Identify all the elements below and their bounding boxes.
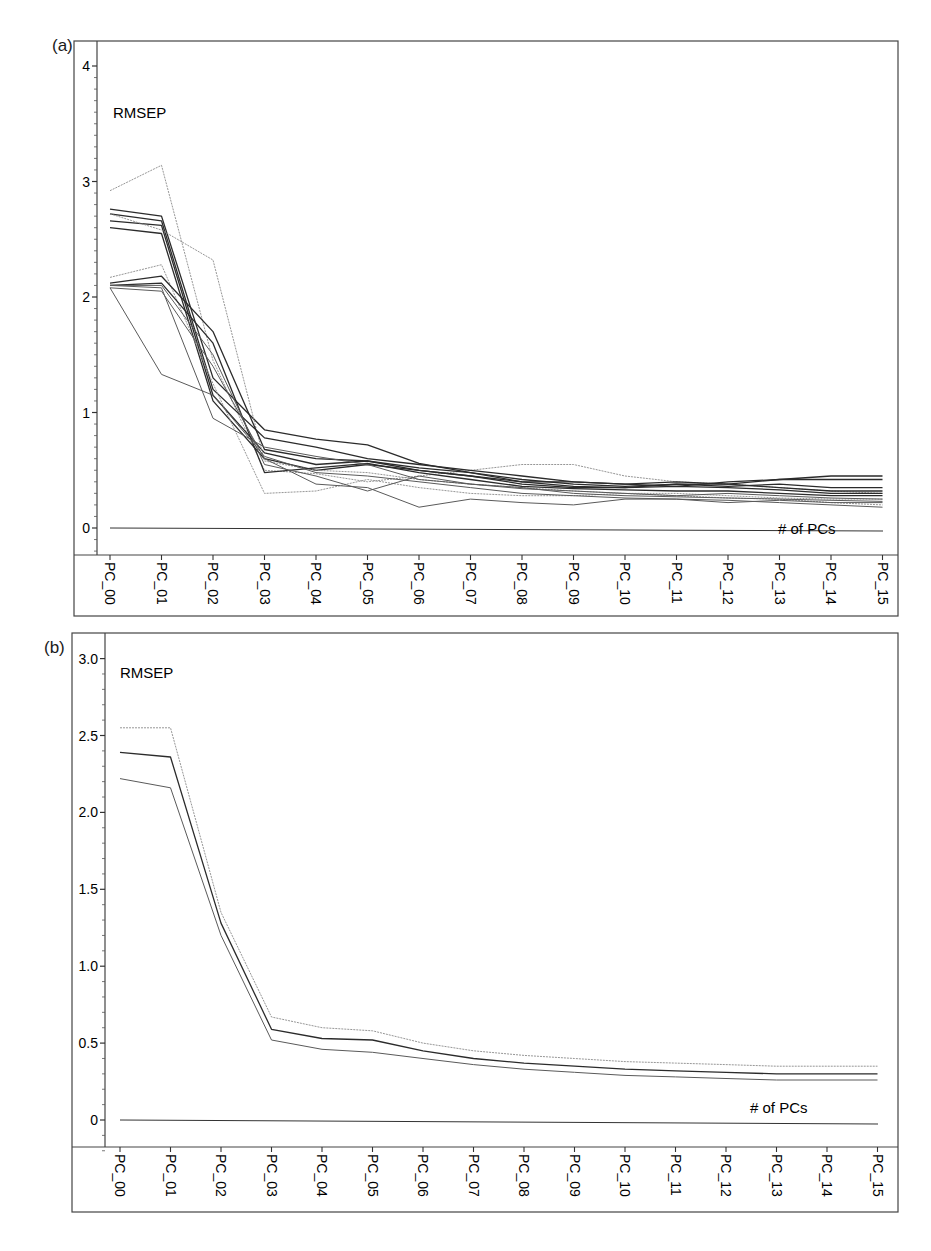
series-baseline xyxy=(120,1120,878,1124)
x-tick-label: PC_08 xyxy=(516,1154,532,1197)
series-s2 xyxy=(110,209,883,484)
x-tick-label: PC_09 xyxy=(567,1154,583,1197)
series-s7 xyxy=(110,265,883,505)
y-tick-label: 0 xyxy=(82,520,90,536)
x-tick-label: PC_12 xyxy=(720,562,736,605)
y-tick-label: 1.0 xyxy=(79,958,99,974)
panel-a-chart: 01234 PC_00PC_01PC_02PC_03PC_04PC_05PC_0… xyxy=(74,41,898,616)
x-tick-label: PC_11 xyxy=(669,562,685,604)
x-tick-label: PC_04 xyxy=(308,562,324,605)
series-s12 xyxy=(110,288,883,507)
x-tick-label: PC_10 xyxy=(617,1154,633,1197)
panel-b-x-ticks: PC_00PC_01PC_02PC_03PC_04PC_05PC_06PC_07… xyxy=(112,1147,886,1197)
panel-a-x-ticks: PC_00PC_01PC_02PC_03PC_04PC_05PC_06PC_07… xyxy=(102,555,891,605)
panel-b-chart: 00.51.01.52.02.53.0 PC_00PC_01PC_02PC_03… xyxy=(72,633,898,1212)
x-tick-label: PC_01 xyxy=(163,1154,179,1197)
y-tick-label: 3 xyxy=(82,174,90,190)
x-tick-label: PC_03 xyxy=(257,562,273,605)
y-tick-label: 2 xyxy=(82,289,90,305)
x-tick-label: PC_04 xyxy=(314,1154,330,1197)
panel-b-ylabel: RMSEP xyxy=(120,664,173,681)
x-tick-label: PC_03 xyxy=(264,1154,280,1197)
x-tick-label: PC_15 xyxy=(875,562,891,605)
y-tick-label: 2.0 xyxy=(79,804,99,820)
x-tick-label: PC_12 xyxy=(718,1154,734,1197)
series-mean xyxy=(120,752,878,1074)
panel-a-series xyxy=(110,165,883,531)
panel-a-y-ticks: 01234 xyxy=(82,58,97,551)
x-tick-label: PC_13 xyxy=(769,1154,785,1197)
x-tick-label: PC_06 xyxy=(415,1154,431,1197)
y-tick-label: 1 xyxy=(82,405,90,421)
x-tick-label: PC_00 xyxy=(112,1154,128,1197)
series-upper xyxy=(120,728,878,1066)
x-tick-label: PC_13 xyxy=(772,562,788,605)
x-tick-label: PC_01 xyxy=(154,562,170,605)
panel-a-ylabel: RMSEP xyxy=(113,104,166,121)
y-tick-label: 1.5 xyxy=(79,881,99,897)
y-tick-label: 3.0 xyxy=(79,651,99,667)
y-tick-label: 0 xyxy=(90,1112,98,1128)
series-baseline xyxy=(110,528,883,531)
x-tick-label: PC_02 xyxy=(213,1154,229,1197)
panel-b-y-ticks: 00.51.01.52.02.53.0 xyxy=(79,651,105,1151)
x-tick-label: PC_10 xyxy=(617,562,633,605)
y-tick-label: 4 xyxy=(82,58,90,74)
x-tick-label: PC_11 xyxy=(668,1154,684,1196)
x-tick-label: PC_15 xyxy=(870,1154,886,1197)
x-tick-label: PC_08 xyxy=(514,562,530,605)
series-s4 xyxy=(110,221,883,488)
x-tick-label: PC_14 xyxy=(819,1154,835,1197)
x-tick-label: PC_00 xyxy=(102,562,118,605)
panel-b-series xyxy=(120,728,878,1124)
series-lower xyxy=(120,779,878,1080)
series-s11 xyxy=(110,288,883,507)
x-tick-label: PC_02 xyxy=(205,562,221,605)
panel-b-xlabel: # of PCs xyxy=(750,1099,808,1116)
y-tick-label: 0.5 xyxy=(79,1035,99,1051)
x-tick-label: PC_09 xyxy=(566,562,582,605)
x-tick-label: PC_14 xyxy=(823,562,839,605)
x-tick-label: PC_05 xyxy=(360,562,376,605)
x-tick-label: PC_07 xyxy=(466,1154,482,1197)
x-tick-label: PC_07 xyxy=(463,562,479,605)
panel-b-frame xyxy=(72,633,898,1212)
series-s13 xyxy=(110,285,883,501)
rmsep-figure: 01234 PC_00PC_01PC_02PC_03PC_04PC_05PC_0… xyxy=(0,0,931,1251)
series-s1 xyxy=(110,165,883,493)
series-s3 xyxy=(110,214,883,487)
y-tick-label: 2.5 xyxy=(79,728,99,744)
x-tick-label: PC_06 xyxy=(411,562,427,605)
x-tick-label: PC_05 xyxy=(365,1154,381,1197)
series-s8 xyxy=(110,276,883,491)
series-s6 xyxy=(110,214,883,499)
panel-a-xlabel: # of PCs xyxy=(778,520,836,537)
